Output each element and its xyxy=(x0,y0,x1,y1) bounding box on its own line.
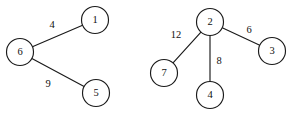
graph-diagram: 491286 6152743 xyxy=(0,0,298,114)
graph-node-label: 2 xyxy=(207,16,212,27)
graph-node: 4 xyxy=(197,82,224,109)
edge-weight-label: 8 xyxy=(216,55,221,66)
edge-weight-label: 12 xyxy=(171,29,182,40)
graph-node-label: 5 xyxy=(93,87,98,98)
graph-node-label: 3 xyxy=(269,45,274,56)
edge-weight-label: 9 xyxy=(45,78,50,89)
edge-weight-label: 6 xyxy=(246,24,251,35)
graph-node: 5 xyxy=(83,80,110,107)
edges-layer xyxy=(32,25,260,86)
graph-edge xyxy=(222,28,260,46)
graph-node-label: 6 xyxy=(17,46,22,57)
graph-node: 6 xyxy=(7,39,34,66)
graph-node-label: 1 xyxy=(92,14,97,25)
graph-node-label: 7 xyxy=(161,67,166,78)
graph-node-label: 4 xyxy=(207,89,213,100)
graph-canvas: 491286 6152743 xyxy=(0,0,298,114)
graph-edge xyxy=(32,58,84,86)
graph-edge xyxy=(32,25,82,46)
nodes-layer: 6152743 xyxy=(7,7,286,109)
graph-node: 1 xyxy=(82,7,109,34)
graph-node: 3 xyxy=(259,38,286,65)
graph-node: 7 xyxy=(151,60,178,87)
edge-weight-label: 4 xyxy=(49,19,55,30)
graph-node: 2 xyxy=(197,9,224,36)
